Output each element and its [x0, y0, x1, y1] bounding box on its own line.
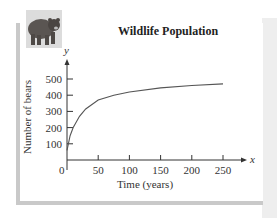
- y-axis-title: Number of bears: [21, 80, 33, 154]
- y-tick-label: 300: [46, 105, 63, 117]
- x-tick-label: 150: [152, 164, 169, 176]
- x-var-label: x: [249, 153, 255, 165]
- y-ticks: 100200300400500: [46, 73, 74, 150]
- y-var-label: y: [63, 44, 69, 56]
- x-axis-arrow-icon: [241, 158, 247, 163]
- origin-label: 0: [59, 164, 65, 176]
- y-tick-label: 200: [46, 122, 63, 134]
- x-tick-label: 200: [184, 164, 201, 176]
- y-tick-label: 400: [46, 89, 63, 101]
- x-ticks: 50100150200250: [93, 155, 232, 176]
- y-tick-label: 500: [46, 73, 63, 85]
- x-tick-label: 250: [215, 164, 232, 176]
- population-curve: [67, 84, 223, 150]
- x-axis-title: Time (years): [117, 178, 173, 191]
- y-tick-label: 100: [46, 138, 63, 150]
- y-axis-arrow-icon: [65, 59, 70, 65]
- axes: [65, 59, 248, 170]
- plot-area: 50100150200250 100200300400500 x y 0 Tim…: [0, 0, 277, 218]
- x-tick-label: 50: [93, 164, 105, 176]
- x-tick-label: 100: [121, 164, 138, 176]
